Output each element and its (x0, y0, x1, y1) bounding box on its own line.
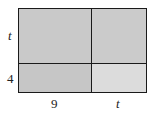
cell-top-left (19, 9, 91, 63)
horizontal-divider (19, 63, 146, 64)
cell-bottom-left (19, 63, 91, 92)
label-left-bottom: 4 (7, 72, 14, 85)
label-bottom-right: t (116, 97, 120, 110)
cell-top-right (91, 9, 146, 63)
cell-bottom-right (91, 63, 146, 92)
label-left-top: t (8, 29, 12, 42)
label-bottom-left: 9 (51, 97, 58, 110)
area-model-rectangle (18, 8, 147, 93)
vertical-divider (91, 9, 92, 92)
